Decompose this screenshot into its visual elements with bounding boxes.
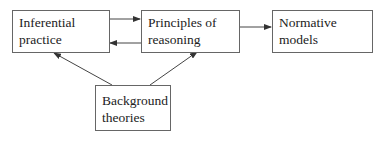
node-background-theories: Background theories — [95, 85, 171, 131]
node-label-line1: Background — [102, 92, 164, 109]
arrow-background-to-inferential — [54, 53, 112, 85]
node-normative-models: Normative models — [272, 10, 373, 53]
node-label-line2: theories — [102, 109, 164, 126]
node-label: Inferential practice — [19, 15, 75, 47]
node-label: Normative models — [279, 15, 337, 47]
arrow-background-to-principles — [150, 52, 197, 85]
node-inferential-practice: Inferential practice — [12, 10, 110, 53]
node-label-line2: reasoning — [148, 31, 233, 48]
node-principles-of-reasoning: Principles of reasoning — [141, 10, 240, 53]
node-label-line1: Principles of — [148, 14, 233, 31]
